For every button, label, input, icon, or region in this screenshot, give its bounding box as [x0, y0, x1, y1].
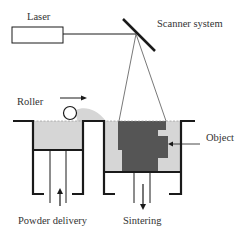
roller-arrow-head — [81, 96, 87, 101]
scanner-mirror — [123, 19, 155, 51]
roller-icon — [64, 107, 77, 120]
laser-label: Laser — [27, 11, 51, 22]
powder-mound — [76, 108, 106, 121]
roller-label: Roller — [17, 96, 44, 107]
sintering-arrow-head — [140, 204, 146, 210]
object-label: Object — [206, 132, 234, 143]
laser-box — [12, 27, 63, 43]
beam-cone-left — [119, 34, 136, 121]
powder-delivery-label: Powder delivery — [18, 215, 88, 226]
powder-delivery-arrow-head — [57, 188, 63, 194]
sls-diagram: Laser Scanner system Roller Object Powd — [0, 0, 247, 238]
powder-supply — [33, 121, 83, 150]
sintering-label: Sintering — [123, 215, 162, 226]
scanner-label: Scanner system — [157, 18, 223, 29]
